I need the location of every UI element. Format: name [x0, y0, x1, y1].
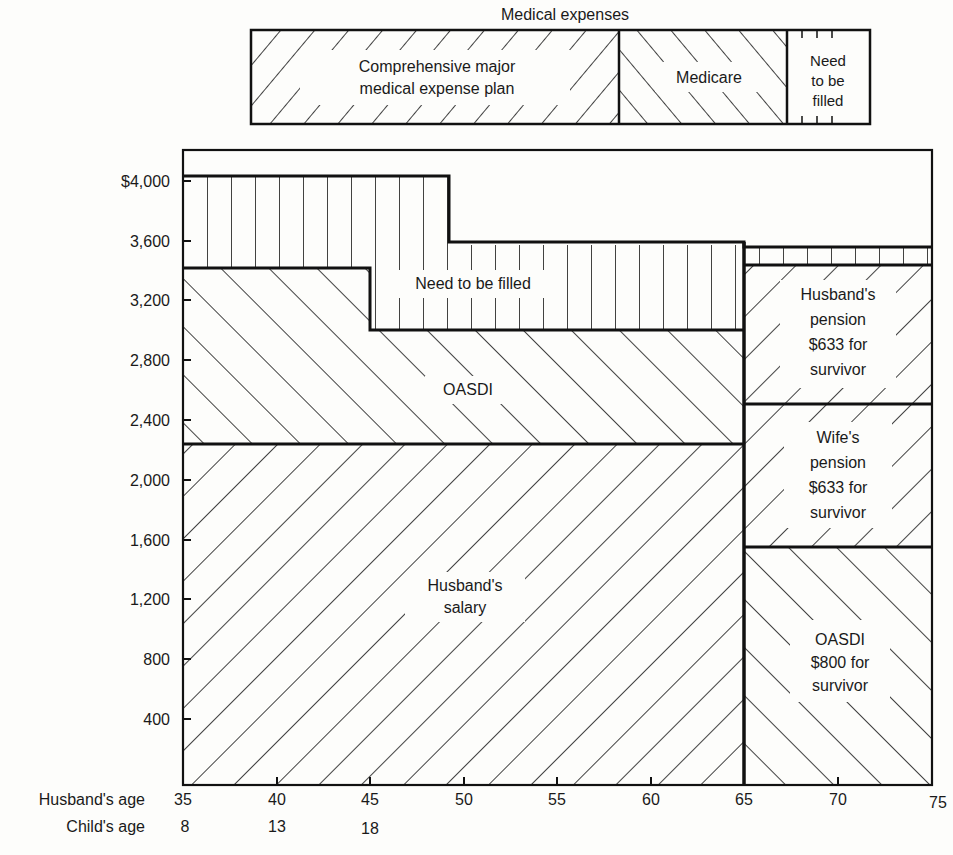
label-os-2: $800 for: [811, 654, 870, 671]
y-tick-label: 2,000: [130, 472, 170, 489]
x-tick-label: 35: [174, 791, 192, 808]
label-wp-2: pension: [810, 454, 866, 471]
child-age-label: 18: [361, 820, 379, 837]
label-wp-1: Wife's: [816, 429, 859, 446]
x-tick-label: 75: [929, 794, 947, 811]
label-med-need-3: filled: [813, 92, 844, 109]
y-tick-label: $4,000: [121, 173, 170, 190]
x-tick-label: 45: [361, 791, 379, 808]
label-salary-1: Husband's: [427, 577, 502, 594]
label-comprehensive-2: medical expense plan: [360, 80, 515, 97]
label-oasdi: OASDI: [443, 381, 493, 398]
y-tick-label: 3,200: [130, 292, 170, 309]
y-tick-label: 3,600: [130, 233, 170, 250]
medical-expenses-title: Medical expenses: [501, 6, 629, 23]
x-tick-label: 65: [735, 791, 753, 808]
label-wp-4: survivor: [810, 504, 867, 521]
y-tick-label: 2,400: [130, 412, 170, 429]
y-tick-label: 1,200: [130, 591, 170, 608]
region-need-to-be-filled-post65: [744, 247, 932, 265]
label-os-1: OASDI: [815, 631, 865, 648]
x-row-label-child: Child's age: [66, 818, 145, 835]
y-tick-label: 2,800: [130, 352, 170, 369]
child-age-label: 8: [181, 818, 190, 835]
label-comprehensive-1: Comprehensive major: [359, 58, 516, 75]
x-tick-label: 60: [642, 791, 660, 808]
y-tick-label: 800: [143, 651, 170, 668]
label-med-need-2: to be: [811, 72, 844, 89]
label-hp-2: pension: [810, 311, 866, 328]
label-wp-3: $633 for: [809, 479, 868, 496]
x-tick-label: 40: [268, 791, 286, 808]
label-need-to-be-filled: Need to be filled: [415, 275, 531, 292]
medical-expenses-bar: Medical expenses Comprehensive major med…: [251, 6, 870, 124]
label-medicare: Medicare: [676, 69, 742, 86]
x-tick-label: 70: [829, 791, 847, 808]
x-row-label-husband: Husband's age: [39, 791, 145, 808]
label-salary-2: salary: [444, 599, 487, 616]
label-os-3: survivor: [812, 677, 869, 694]
label-hp-4: survivor: [810, 361, 867, 378]
child-age-label: 13: [268, 818, 286, 835]
y-tick-label: 1,600: [130, 532, 170, 549]
label-hp-1: Husband's: [800, 286, 875, 303]
x-tick-label: 50: [455, 791, 473, 808]
y-tick-label: 400: [143, 711, 170, 728]
x-tick-label: 55: [548, 791, 566, 808]
income-needs-chart: Medical expenses Comprehensive major med…: [0, 0, 953, 855]
label-hp-3: $633 for: [809, 336, 868, 353]
label-med-need-1: Need: [810, 52, 846, 69]
